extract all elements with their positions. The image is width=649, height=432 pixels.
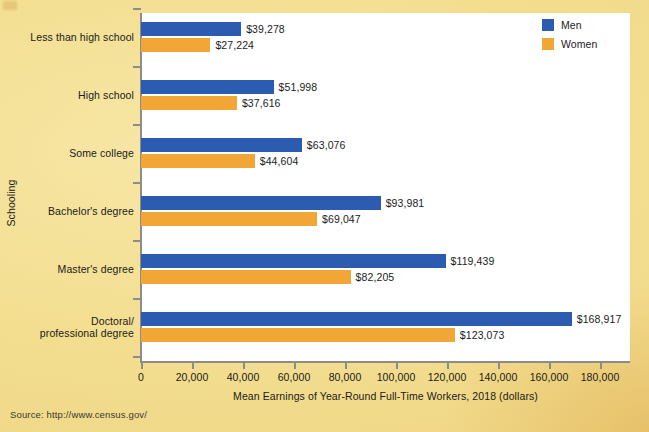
bar-value-women-5: $123,073 — [460, 328, 505, 342]
y-axis-tick-end — [133, 356, 141, 358]
x-axis-tick-3 — [294, 362, 296, 369]
bar-value-women-2: $44,604 — [260, 154, 299, 168]
x-axis-tick-label-2: 40,000 — [227, 371, 260, 383]
legend-swatch-women-icon — [542, 38, 554, 50]
x-axis-tick-6 — [447, 362, 449, 369]
x-axis-tick-4 — [345, 362, 347, 369]
x-axis-tick-5 — [396, 362, 398, 369]
y-axis-tick-5 — [133, 298, 141, 300]
x-axis-tick-label-6: 120,000 — [428, 371, 467, 383]
bar-men-3 — [141, 196, 381, 210]
bar-value-men-1: $51,998 — [279, 80, 318, 94]
y-axis-category-label-4: Master's degree — [58, 263, 134, 276]
x-axis-tick-label-3: 60,000 — [278, 371, 311, 383]
x-axis-tick-8 — [549, 362, 551, 369]
bar-chart: $39,278$27,224$51,998$37,616$63,076$44,6… — [0, 0, 649, 432]
bar-women-0 — [141, 38, 210, 52]
x-axis-tick-0 — [141, 362, 143, 369]
bar-men-0 — [141, 22, 241, 36]
y-axis-labels: Less than high schoolHigh schoolSome col… — [0, 0, 134, 432]
x-axis-tick-1 — [192, 362, 194, 369]
legend-swatch-men-icon — [542, 19, 554, 31]
y-axis-tick-1 — [133, 66, 141, 68]
y-axis-category-label-5: Doctoral/professional degree — [40, 315, 134, 340]
x-axis-line — [140, 361, 630, 363]
x-axis-tick-label-1: 20,000 — [176, 371, 209, 383]
x-axis-tick-label-0: 0 — [138, 371, 144, 383]
legend-label-women: Women — [561, 38, 598, 50]
legend-item-men: Men — [542, 19, 598, 31]
bar-women-5 — [141, 328, 455, 342]
plot-area — [141, 13, 630, 362]
source-note: Source: http://www.census.gov/ — [10, 409, 147, 420]
x-axis-tick-label-7: 140,000 — [479, 371, 518, 383]
y-axis-tick-3 — [133, 182, 141, 184]
y-axis-category-label-0: Less than high school — [30, 31, 134, 44]
x-axis-title: Mean Earnings of Year-Round Full-Time Wo… — [141, 390, 630, 402]
y-axis-category-label-3: Bachelor's degree — [48, 205, 134, 218]
x-axis-tick-label-5: 100,000 — [377, 371, 416, 383]
bar-value-women-0: $27,224 — [215, 38, 254, 52]
bar-men-1 — [141, 80, 274, 94]
bar-men-5 — [141, 312, 572, 326]
bar-value-women-3: $69,047 — [322, 212, 361, 226]
bar-value-women-1: $37,616 — [242, 96, 281, 110]
bar-value-women-4: $82,205 — [356, 270, 395, 284]
y-axis-tick-4 — [133, 240, 141, 242]
chart-legend: Men Women — [542, 19, 598, 57]
legend-label-men: Men — [561, 19, 582, 31]
y-axis-title: Schooling — [5, 168, 17, 238]
x-axis-tick-label-8: 160,000 — [530, 371, 569, 383]
bar-men-4 — [141, 254, 446, 268]
y-axis-category-label-2: Some college — [69, 147, 134, 160]
x-axis-tick-9 — [600, 362, 602, 369]
bar-value-men-5: $168,917 — [577, 312, 622, 326]
bar-men-2 — [141, 138, 302, 152]
y-axis-tick-0 — [133, 8, 141, 10]
x-axis-tick-label-4: 80,000 — [329, 371, 362, 383]
bar-women-1 — [141, 96, 237, 110]
bar-value-men-0: $39,278 — [246, 22, 285, 36]
bar-women-4 — [141, 270, 351, 284]
legend-item-women: Women — [542, 38, 598, 50]
bar-value-men-2: $63,076 — [307, 138, 346, 152]
bar-value-men-4: $119,439 — [451, 254, 495, 268]
bar-value-men-3: $93,981 — [386, 196, 425, 210]
y-axis-tick-2 — [133, 124, 141, 126]
x-axis-tick-7 — [498, 362, 500, 369]
x-axis-tick-2 — [243, 362, 245, 369]
y-axis-category-label-1: High school — [78, 89, 134, 102]
bar-women-3 — [141, 212, 317, 226]
x-axis-tick-label-9: 180,000 — [581, 371, 620, 383]
bar-women-2 — [141, 154, 255, 168]
